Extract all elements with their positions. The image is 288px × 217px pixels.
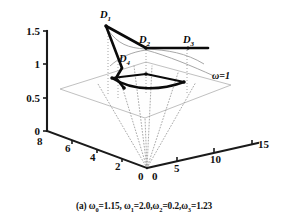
caption-w3-symbol: ω [181, 201, 188, 211]
caption-prefix: (a) [76, 201, 89, 211]
z-tick-label-1_5: 1.5 [26, 25, 40, 37]
figure-caption: (a) ω0=1.15, ω1=2.0,ω2=0.2,ω3=1.23 [0, 201, 288, 213]
x-tick-label-2: 2 [115, 160, 121, 172]
caption-w1-symbol: ω [124, 201, 131, 211]
plot-3d-canvas: D1 D2 D3 D4 ω=1 1.5 1 0.5 0 8 6 4 [0, 0, 288, 217]
y-tick-label-15: 15 [258, 138, 270, 150]
label-d3: D3 [182, 34, 195, 48]
x-tick-label-0: 0 [138, 170, 144, 182]
node-d1 [104, 24, 107, 27]
omega-plane-group [60, 62, 231, 118]
caption-w0-value: =1.15, [99, 201, 125, 211]
label-d1: D1 [99, 9, 111, 23]
node-arc-mid [144, 72, 147, 75]
x-tick-label-6: 6 [65, 142, 71, 154]
z-tick-label-0_5: 0.5 [26, 92, 40, 104]
cone-ray-center [145, 118, 147, 168]
node-arc-start [110, 76, 113, 79]
node-d3 [186, 46, 189, 49]
node-arc-end [182, 80, 185, 83]
z-axis-group: 1.5 1 0.5 0 [26, 25, 47, 137]
y-tick-label-10: 10 [210, 153, 222, 165]
label-omega-plane: ω=1 [212, 70, 230, 81]
omega-plane-face [60, 62, 231, 118]
y-axis-line [147, 143, 258, 168]
y-axis-group: 0 5 10 15 [147, 138, 270, 182]
caption-w2-value: =0.2, [162, 201, 181, 211]
caption-w1-value: =2.0, [134, 201, 153, 211]
y-tick-label-5: 5 [174, 162, 180, 174]
x-tick-label-8: 8 [37, 135, 43, 147]
node-d4 [122, 86, 126, 90]
figure-container: D1 D2 D3 D4 ω=1 1.5 1 0.5 0 8 6 4 [0, 0, 288, 217]
z-tick-label-1: 1 [35, 58, 41, 70]
x-tick-label-4: 4 [90, 151, 96, 163]
x-axis-group: 8 6 4 2 0 [37, 131, 147, 182]
y-tick-label-0: 0 [152, 170, 158, 182]
caption-w3-value: =1.23 [191, 201, 212, 211]
